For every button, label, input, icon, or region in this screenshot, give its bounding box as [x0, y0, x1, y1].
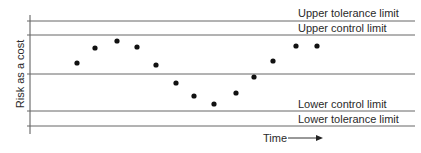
y-axis-label: Risk as a cost — [14, 40, 26, 108]
upper-control-label: Upper control limit — [298, 22, 387, 34]
data-point — [270, 58, 275, 63]
data-point — [293, 43, 298, 48]
data-point — [191, 93, 196, 98]
lower-tolerance-label: Lower tolerance limit — [298, 113, 399, 125]
data-point — [74, 60, 79, 65]
lower-control-label: Lower control limit — [298, 98, 387, 110]
data-point — [233, 90, 238, 95]
data-point — [173, 80, 178, 85]
data-point — [134, 44, 139, 49]
data-point — [92, 45, 97, 50]
data-point — [153, 62, 158, 67]
upper-tolerance-label: Upper tolerance limit — [298, 7, 399, 19]
data-point — [314, 43, 319, 48]
data-point — [114, 38, 119, 43]
arrow-right-icon — [316, 135, 323, 141]
data-points — [74, 38, 319, 106]
control-chart: Upper tolerance limit Upper control limi… — [0, 0, 421, 153]
x-axis-label: Time — [263, 132, 287, 144]
data-point — [251, 74, 256, 79]
data-point — [211, 101, 216, 106]
